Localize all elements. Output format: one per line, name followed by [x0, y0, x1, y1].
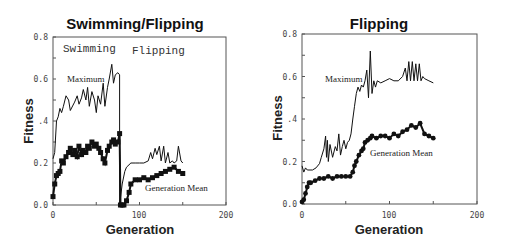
- y-tick-label: 0.2: [283, 158, 298, 167]
- series-label-generation-mean: Generation Mean: [145, 183, 208, 193]
- series-label-maximum: Maximum: [325, 74, 363, 84]
- chart-title: Flipping: [350, 15, 408, 32]
- figure: Swimming/Flipping 0.0 0.2 .4 0.6 0.8 0 1…: [0, 0, 505, 248]
- series-label-generation-mean: Generation Mean: [370, 148, 433, 158]
- y-axis-label: Fitness: [270, 95, 285, 141]
- x-axis-label: Generation: [106, 222, 175, 237]
- y-tick-label: 0.6: [34, 75, 49, 84]
- y-tick-label: .4: [287, 115, 297, 124]
- chart-title: Swimming/Flipping: [66, 15, 204, 32]
- y-tick-label: 0.8: [34, 33, 49, 42]
- y-tick-label: 0.8: [283, 30, 298, 39]
- x-tick-label: 0: [300, 211, 305, 220]
- y-tick-label: 0.0: [283, 200, 298, 209]
- generation-mean-series: [302, 123, 433, 202]
- x-axis-label: Generation: [355, 222, 424, 237]
- x-tick-label: 200: [470, 211, 485, 220]
- chart-swimming-flipping: Swimming/Flipping 0.0 0.2 .4 0.6 0.8 0 1…: [21, 15, 233, 237]
- y-tick-label: 0.2: [34, 159, 49, 168]
- x-tick-label: 100: [132, 211, 147, 220]
- x-tick-label: 0: [51, 211, 56, 220]
- x-axis: 0 100 200: [300, 211, 485, 220]
- chart-flipping: Flipping 0.0 0.2 .4 0.6 0.8 0 100 200 Ge…: [270, 15, 484, 237]
- series-label-maximum: Maximum: [67, 74, 105, 84]
- phase-label-flipping: Flipping: [132, 45, 185, 57]
- y-axis-label: Fitness: [21, 98, 36, 144]
- plot-area: [300, 34, 477, 204]
- x-axis: 0 100 200: [51, 211, 234, 220]
- plot-area: [51, 37, 227, 208]
- y-tick-label: 0.6: [283, 73, 298, 82]
- x-tick-label: 200: [219, 211, 234, 220]
- x-tick-label: 100: [382, 211, 397, 220]
- phase-label-swimming: Swimming: [63, 43, 116, 55]
- y-tick-label: .4: [38, 117, 48, 126]
- y-tick-label: 0.0: [34, 201, 49, 210]
